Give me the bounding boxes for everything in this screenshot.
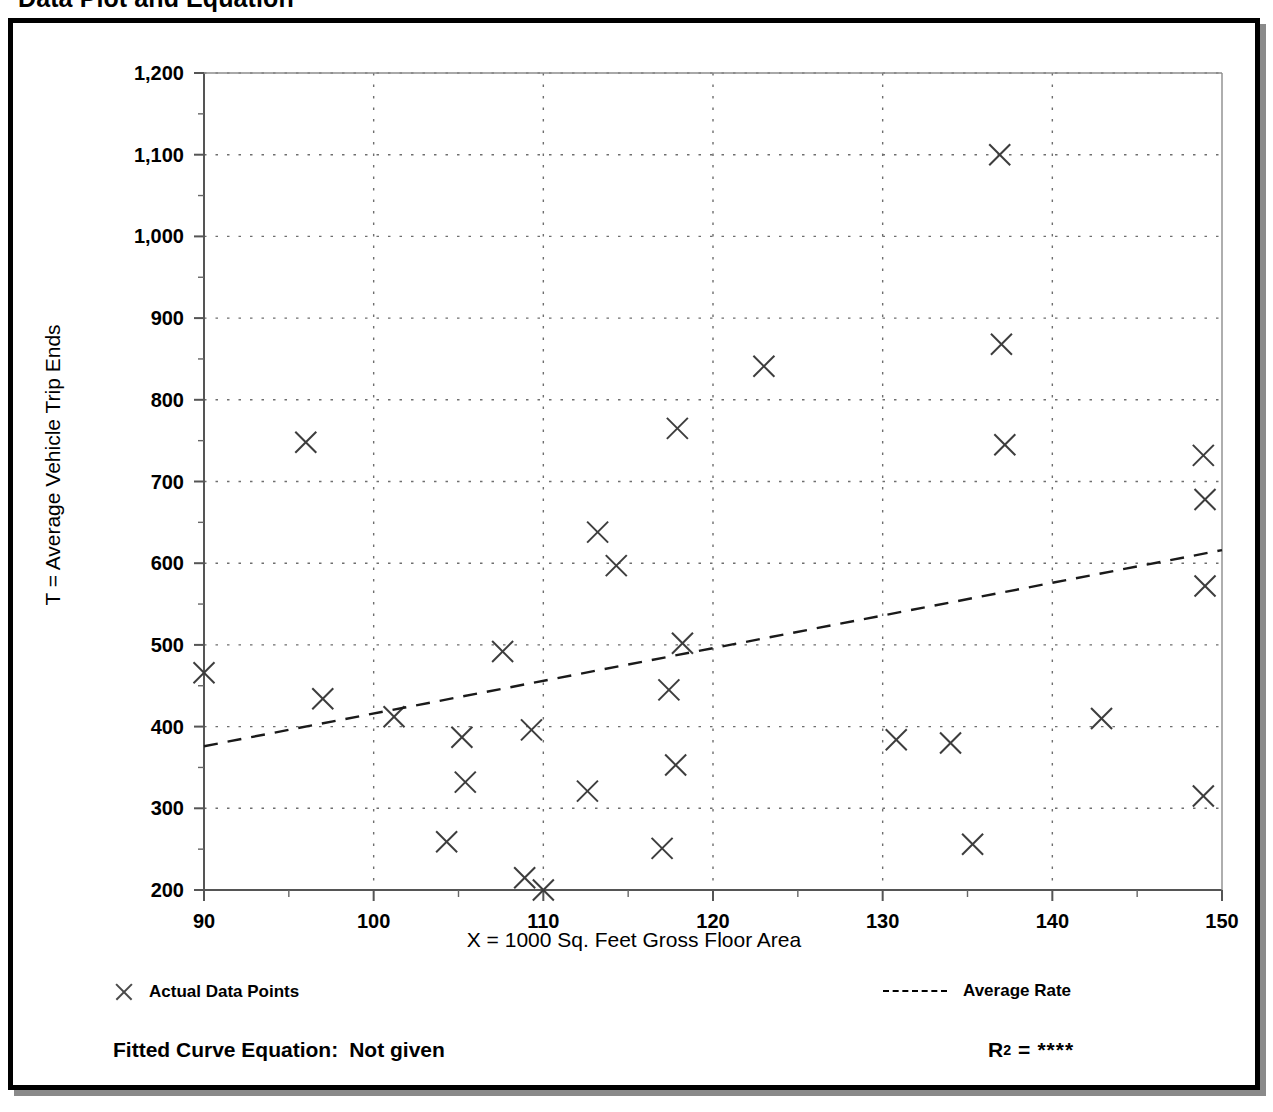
data-point-marker [451,727,472,748]
data-point-marker [1195,576,1216,597]
data-point-marker [658,679,679,700]
data-point-marker [753,356,774,377]
y-tick-label: 1,100 [94,143,184,166]
data-point-marker [989,144,1010,165]
legend-item-actual-data-points: Actual Data Points [113,981,299,1003]
legend-item-average-rate: Average Rate [883,981,1071,1001]
r-squared-symbol: R [988,1038,1003,1062]
data-point-marker [312,688,333,709]
r-squared-equals: = [1018,1038,1030,1062]
r-squared-exponent: 2 [1003,1042,1011,1058]
data-point-marker [665,754,686,775]
data-point-marker [1195,489,1216,510]
r-squared-stars: **** [1037,1038,1074,1062]
legend-label-average-rate: Average Rate [963,981,1071,1001]
y-axis-title: T = Average Vehicle Trip Ends [41,265,65,665]
data-point-marker [940,732,961,753]
y-tick-label: 500 [94,633,184,656]
data-point-marker [962,834,983,855]
data-point-marker [1091,708,1112,729]
data-point-marker [991,334,1012,355]
data-point-marker [1193,445,1214,466]
data-point-marker [667,418,688,439]
r-squared-value: R2 = **** [988,1038,1074,1062]
data-point-marker [606,555,627,576]
data-point-marker [587,522,608,543]
data-point-marker [1193,786,1214,807]
data-point-marker [436,831,457,852]
data-point-marker [514,867,535,888]
y-tick-label: 800 [94,388,184,411]
y-tick-label: 600 [94,552,184,575]
data-point-marker [886,729,907,750]
y-tick-label: 700 [94,470,184,493]
scatter-chart: 2003004005006007008009001,0001,1001,200 … [13,23,1255,1085]
y-tick-label: 400 [94,715,184,738]
y-tick-label: 900 [94,307,184,330]
data-point-marker [521,719,542,740]
data-point-marker [295,432,316,453]
legend-label-actual-data-points: Actual Data Points [149,982,299,1002]
page-title: Data Plot and Equation [18,0,294,13]
chart-panel: 2003004005006007008009001,0001,1001,200 … [8,18,1260,1090]
data-point-marker [455,772,476,793]
data-point-marker [492,641,513,662]
y-tick-label: 300 [94,797,184,820]
y-tick-label: 200 [94,879,184,902]
data-point-marker [652,838,673,859]
dashed-line-icon [883,990,947,992]
fitted-curve-equation: Fitted Curve Equation: Not given [113,1038,445,1062]
x-axis-title: X = 1000 Sq. Feet Gross Floor Area [13,928,1255,952]
fitted-equation-value: Not given [349,1038,445,1062]
data-point-marker [672,633,693,654]
y-tick-label: 1,200 [94,62,184,85]
fitted-equation-prefix: Fitted Curve Equation: [113,1038,338,1062]
data-point-marker [994,434,1015,455]
y-tick-label: 1,000 [94,225,184,248]
x-marker-icon [113,981,135,1003]
data-point-marker [577,781,598,802]
